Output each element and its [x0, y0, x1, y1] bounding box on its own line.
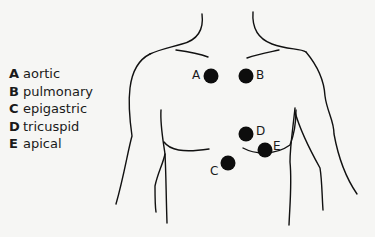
point-label-a: A [192, 68, 200, 82]
point-label-b: B [256, 68, 264, 82]
point-epigastric [221, 156, 236, 171]
point-tricuspid [239, 127, 254, 142]
point-label-c: C [210, 164, 218, 178]
torso-outline [116, 12, 357, 225]
point-label-e: E [273, 139, 281, 153]
point-label-d: D [256, 124, 265, 138]
point-apical [258, 143, 273, 158]
auscultation-points [204, 69, 273, 171]
point-pulmonary [239, 69, 254, 84]
torso-outline-figure [0, 0, 375, 237]
point-aortic [204, 69, 219, 84]
